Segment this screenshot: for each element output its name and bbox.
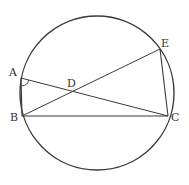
- circle: [20, 16, 174, 170]
- geometry-diagram: A B C D E: [0, 0, 189, 185]
- label-d: D: [67, 77, 76, 90]
- label-b: B: [10, 111, 18, 124]
- label-c: C: [171, 111, 179, 124]
- angle-mark-a: [22, 80, 29, 86]
- label-e: E: [161, 37, 169, 50]
- segment-ab: [21, 78, 22, 116]
- label-a: A: [8, 66, 18, 79]
- segment-be: [22, 49, 160, 116]
- segment-ac: [21, 78, 168, 116]
